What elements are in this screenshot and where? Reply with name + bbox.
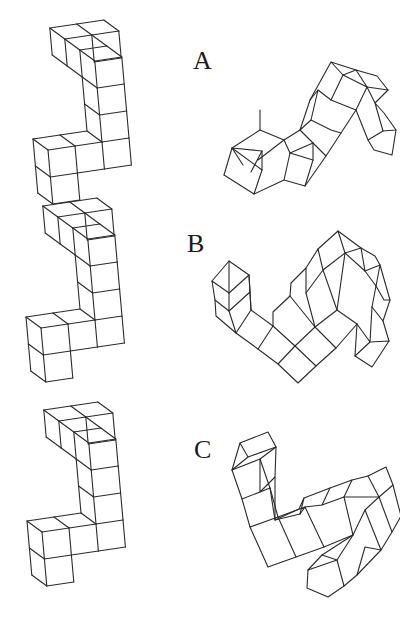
cube-shape-b-left: [26, 198, 124, 382]
cube-shape-a-left: [33, 20, 131, 204]
cube-shape-b-right: [212, 231, 390, 383]
cube-figures: [0, 0, 400, 628]
cube-shape-c-right: [232, 432, 400, 597]
pair-label-b: B: [187, 231, 204, 257]
pair-label-a: A: [193, 48, 212, 74]
figure-canvas: A B C: [0, 0, 400, 628]
cube-shape-a-right: [224, 62, 396, 194]
cube-shape-c-left: [27, 402, 125, 586]
pair-label-c: C: [194, 437, 211, 463]
